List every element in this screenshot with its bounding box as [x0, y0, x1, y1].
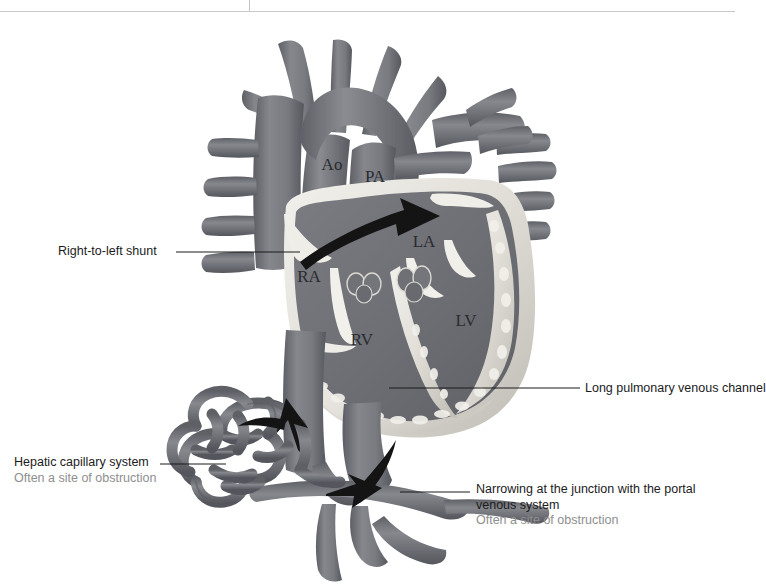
- annotation-title: Long pulmonary venous channel: [585, 381, 766, 395]
- annotation-right-to-left-shunt: Right-to-left shunt: [58, 244, 157, 260]
- systemic-vein-stumps-left: [202, 138, 260, 273]
- annotation-narrowing-portal-junction: Narrowing at the junction with the porta…: [476, 482, 726, 529]
- annotation-long-pulmonary-venous-channel: Long pulmonary venous channel: [585, 381, 766, 397]
- annotation-title: Hepatic capillary system: [14, 455, 149, 469]
- portal-branch-left: [316, 504, 342, 582]
- annotation-subtitle: Often a site of obstruction: [476, 513, 726, 529]
- label-lv: LV: [455, 311, 477, 330]
- label-rv: RV: [351, 330, 374, 349]
- label-ao: Ao: [322, 155, 343, 174]
- annotation-hepatic-capillary-system: Hepatic capillary system Often a site of…: [14, 455, 156, 486]
- right-pulmonary-artery: [394, 151, 472, 180]
- label-ra: RA: [297, 267, 321, 286]
- annotation-subtitle: Often a site of obstruction: [14, 471, 156, 487]
- annotation-title: Narrowing at the junction with the porta…: [476, 482, 696, 512]
- label-la: LA: [413, 232, 436, 251]
- annotation-title: Right-to-left shunt: [58, 244, 157, 258]
- label-pa: PA: [365, 167, 386, 186]
